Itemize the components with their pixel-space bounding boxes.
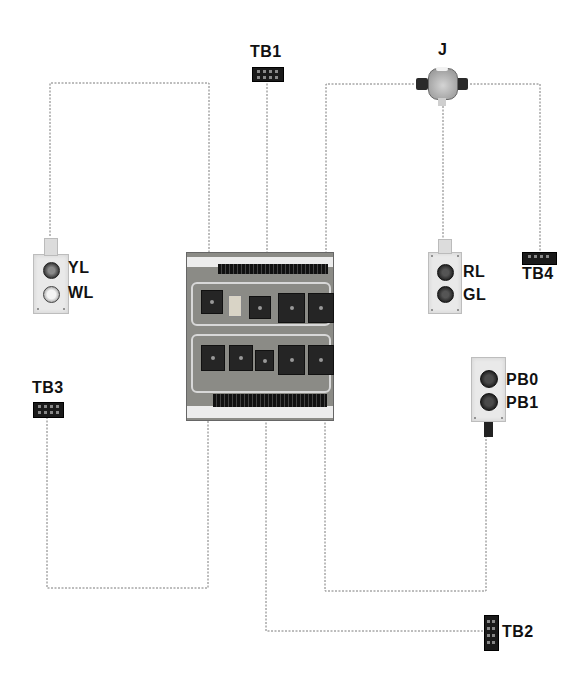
relay-bottom-3[interactable] [255, 350, 274, 371]
relay-bottom-5[interactable] [308, 345, 334, 375]
green-lamp[interactable] [437, 286, 454, 303]
lamp-box-right-neck [438, 239, 452, 254]
lamp-box-left-neck [44, 238, 58, 256]
relay-bottom-2[interactable] [229, 345, 253, 371]
wire-tb3-to-panel [47, 417, 208, 588]
wire-junction-to-tb4 [470, 84, 540, 252]
pushbutton-box[interactable] [471, 357, 506, 422]
pb1-label: PB1 [506, 395, 539, 411]
tb1-terminal-block[interactable] [252, 67, 284, 82]
relay-bottom-4[interactable] [278, 345, 305, 375]
pb0-label: PB0 [506, 372, 539, 388]
tb2-terminal-block[interactable] [484, 615, 499, 651]
panel-bottom-label-strip [187, 406, 333, 418]
white-lamp[interactable] [43, 286, 60, 303]
tb3-label: TB3 [32, 380, 64, 396]
wire-panel-to-tb2 [266, 419, 483, 631]
junction-box[interactable] [414, 64, 470, 108]
pb1-button[interactable] [480, 393, 498, 411]
tb1-label: TB1 [250, 44, 282, 60]
wire-panel-to-pushbutton [325, 419, 486, 591]
junction-body [428, 68, 458, 100]
junction-label: J [438, 42, 447, 58]
tb2-label: TB2 [502, 624, 534, 640]
gl-label: GL [463, 287, 486, 303]
relay-top-4[interactable] [278, 293, 305, 323]
tb4-terminal-block[interactable] [522, 252, 557, 265]
wl-label: WL [68, 285, 94, 301]
wire-lampbox-left-to-panel [50, 83, 209, 252]
red-lamp[interactable] [437, 264, 454, 281]
relay-panel[interactable] [186, 252, 334, 421]
relay-top-2[interactable] [228, 295, 242, 317]
pushbutton-cable-gland [484, 422, 493, 437]
relay-bottom-1[interactable] [201, 345, 225, 371]
wire-junction-to-panel [326, 84, 414, 252]
tb4-label: TB4 [522, 266, 554, 282]
lamp-box-left[interactable] [33, 254, 69, 314]
relay-top-3[interactable] [249, 296, 271, 319]
panel-top-terminal-rail[interactable] [218, 264, 328, 274]
junction-left-hub [416, 78, 428, 90]
rl-label: RL [463, 264, 485, 280]
junction-bottom-nipple [438, 98, 446, 106]
yellow-lamp[interactable] [43, 262, 60, 279]
junction-top-cap [436, 67, 448, 71]
tb3-terminal-block[interactable] [33, 402, 64, 418]
lamp-box-right[interactable] [428, 252, 462, 314]
relay-top-5[interactable] [308, 293, 334, 323]
yl-label: YL [68, 260, 89, 276]
panel-bottom-terminal-rail[interactable] [213, 394, 327, 407]
relay-top-1[interactable] [201, 290, 223, 314]
pb0-button[interactable] [480, 370, 498, 388]
